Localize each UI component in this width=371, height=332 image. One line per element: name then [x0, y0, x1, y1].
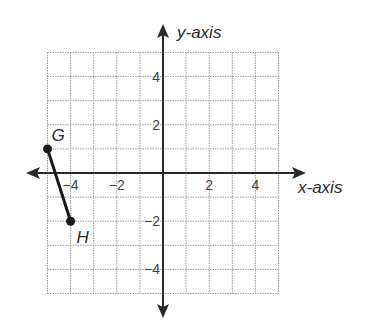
point-h-label: H	[77, 228, 90, 247]
x-tick-label: 4	[252, 177, 260, 193]
x-tick-label: −4	[63, 177, 79, 193]
x-axis-label: x-axis	[297, 178, 343, 197]
y-tick-label: 4	[152, 69, 160, 85]
y-tick-label: −4	[144, 261, 160, 277]
coordinate-plane: y-axis x-axis −4−22442−2−4 GH	[0, 0, 371, 332]
point-g-label: G	[52, 126, 65, 145]
point-h-dot	[66, 217, 75, 226]
y-tick-label: 2	[152, 117, 160, 133]
y-tick-label: −2	[144, 213, 160, 229]
x-tick-label: −2	[109, 177, 125, 193]
point-g-dot	[43, 144, 52, 153]
x-tick-label: 2	[205, 177, 213, 193]
y-axis-label: y-axis	[176, 23, 222, 42]
axes	[26, 24, 306, 318]
